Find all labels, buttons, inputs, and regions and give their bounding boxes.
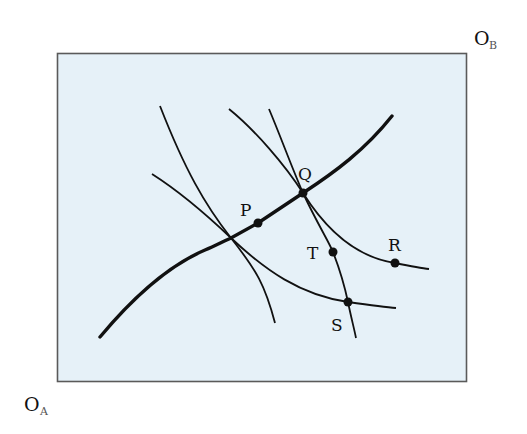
- point-p: [254, 219, 263, 228]
- origin-b-subscript: B: [489, 39, 497, 52]
- label-s: S: [331, 315, 343, 335]
- edgeworth-box-diagram: P Q R S T O B O A: [0, 0, 527, 434]
- origin-a-subscript: A: [39, 405, 49, 418]
- edgeworth-box: [58, 54, 467, 382]
- origin-a-letter: O: [24, 393, 40, 415]
- origin-b-letter: O: [474, 27, 490, 49]
- label-t: T: [307, 243, 319, 263]
- point-r: [391, 259, 400, 268]
- label-r: R: [388, 235, 402, 255]
- point-s: [344, 298, 353, 307]
- point-q: [299, 189, 308, 198]
- point-t: [329, 248, 338, 257]
- label-p: P: [240, 200, 251, 220]
- label-q: Q: [298, 164, 312, 184]
